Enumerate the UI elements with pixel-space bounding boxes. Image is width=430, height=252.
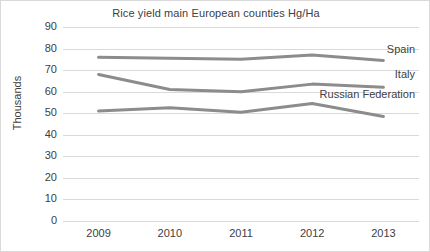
chart-title: Rice yield main European counties Hg/Ha <box>1 7 430 19</box>
x-tick-label: 2010 <box>140 227 200 239</box>
series-label-italy: Italy <box>395 68 415 80</box>
x-tick-label: 2009 <box>69 227 129 239</box>
y-tick-label: 90 <box>23 20 57 32</box>
series-label-russian-federation: Russian Federation <box>320 88 415 100</box>
series-line-spain <box>99 55 384 60</box>
gridline <box>63 221 419 222</box>
series-line-russian-federation <box>99 104 384 117</box>
y-tick-label: 60 <box>23 85 57 97</box>
line-chart: Rice yield main European counties Hg/Ha … <box>0 0 430 252</box>
x-tick-label: 2013 <box>353 227 413 239</box>
y-tick-label: 80 <box>23 42 57 54</box>
y-tick-label: 10 <box>23 192 57 204</box>
x-axis-tick-labels: 20092010201120122013 <box>63 227 419 249</box>
series-label-spain: Spain <box>387 43 415 55</box>
y-tick-label: 70 <box>23 63 57 75</box>
y-tick-label: 20 <box>23 171 57 183</box>
series-lines-group <box>63 27 419 221</box>
x-tick-label: 2012 <box>282 227 342 239</box>
x-tick-label: 2011 <box>211 227 271 239</box>
y-tick-label: 30 <box>23 149 57 161</box>
y-tick-label: 40 <box>23 128 57 140</box>
y-tick-label: 0 <box>23 214 57 226</box>
plot-area <box>63 27 419 221</box>
y-tick-label: 50 <box>23 106 57 118</box>
